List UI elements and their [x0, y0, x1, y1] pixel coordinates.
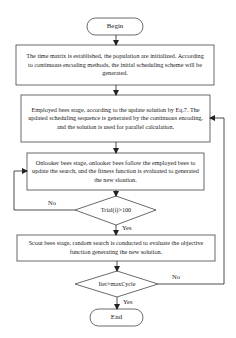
trial-yes-label: Yes: [122, 224, 131, 231]
trial-no-label: No: [48, 199, 56, 206]
end-label: End: [90, 309, 143, 326]
onlooker-step-text: Onlooker bees stage, onlooker bees follo…: [27, 153, 204, 190]
iter-decision-text: Iter>maxCycle: [82, 278, 152, 290]
iter-no-label: No: [172, 273, 180, 280]
iter-yes-label: Yes: [123, 298, 132, 305]
employed-step-text: Employed bees stage, according to the up…: [21, 95, 210, 142]
trial-decision-text: Trial(i)>100: [85, 204, 147, 216]
begin-label: Begin: [87, 18, 143, 35]
init-step-text: The time matrix is established, the popu…: [16, 45, 214, 85]
scout-step-text: Scout bees stage, random search is condu…: [17, 235, 215, 261]
